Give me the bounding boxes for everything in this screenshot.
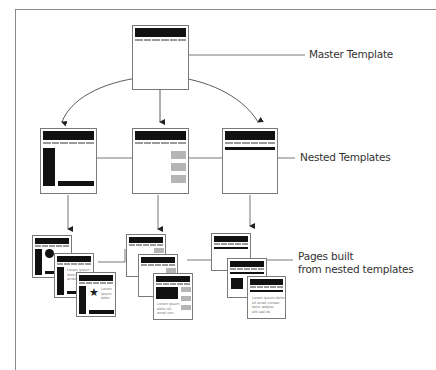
sidebar-block [43,148,55,186]
star-icon: ★ [89,287,99,298]
nested-template-left [40,128,97,194]
gray-box [171,175,186,183]
gray-box [171,163,186,171]
nested-template-right [222,128,278,194]
nested-templates-label: Nested Templates [300,151,391,164]
nav-bar [135,142,186,144]
nav-bar [135,39,186,41]
page-center-3: Lorem ipsum dolor sit amet con [153,273,193,320]
subnav-bar [225,147,275,150]
page-text: Lorem ipsum dolor sit amet consec tetur … [252,296,285,314]
page-left-3: ★ Lorem ipsum dolor [76,272,116,317]
page-text: Lorem ipsum dolor sit amet con [157,302,180,316]
nav-bar [225,142,275,144]
nested-template-center [132,128,189,194]
page-text: Lorem ipsum dolor [101,287,112,301]
header-bar [135,131,186,140]
master-template [132,25,189,90]
master-template-label: Master Template [309,48,393,61]
header-bar [43,131,94,140]
image-block [156,287,178,299]
gray-box [171,151,186,159]
nav-bar [43,142,94,144]
header-bar [135,28,186,37]
circle-graphic [45,249,54,258]
image-block [231,278,243,289]
header-bar [225,131,275,140]
pages-label-line1: Pages built [298,250,353,263]
pages-label-line2: from nested templates [298,263,414,276]
page-right-3: Lorem ipsum dolor sit amet consec tetur … [247,276,286,319]
footer-bar [58,181,94,186]
